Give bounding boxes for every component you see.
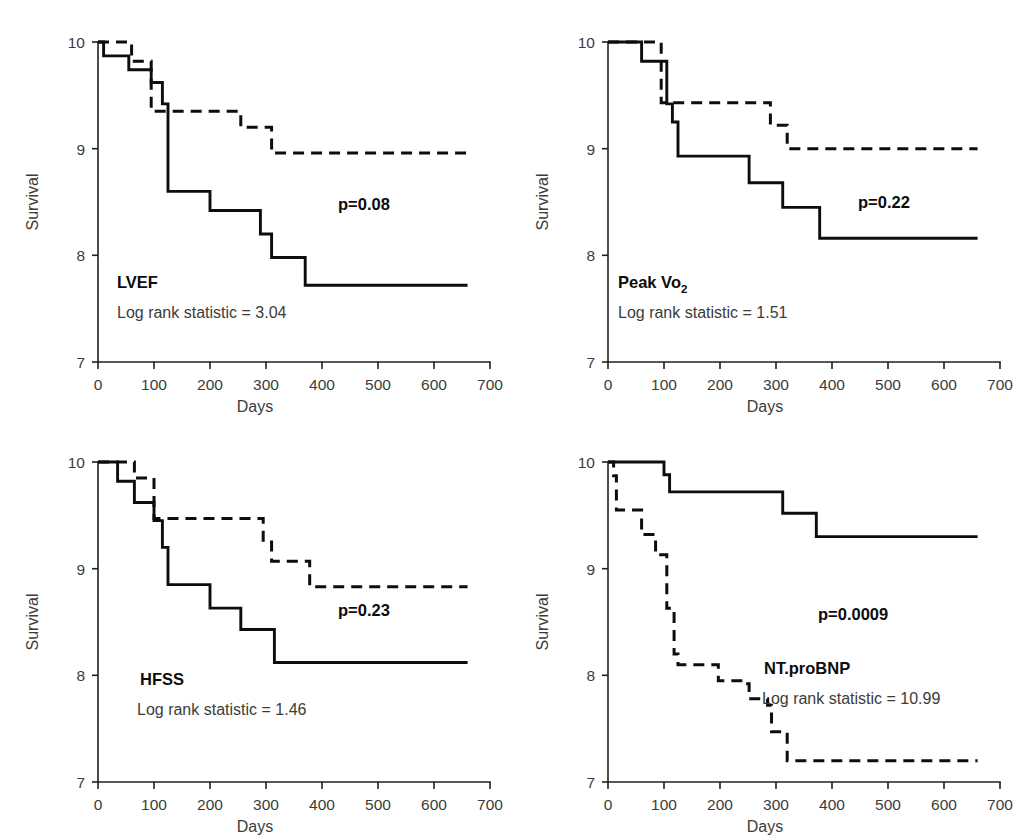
y-axis-title: Survival [24, 594, 41, 651]
x-tick-label: 600 [931, 376, 957, 393]
x-ticks-peak-vo2: 0 100 200 300 400 500 600 700 [604, 362, 1014, 393]
y-tick-label: 10 [68, 454, 86, 471]
y-ticks-lvef: 10 9 8 7 [68, 34, 98, 371]
x-tick-label: 500 [875, 376, 901, 393]
survival-curve-dashed [98, 462, 468, 587]
figure-root: 10 9 8 7 0 100 200 300 400 500 600 [0, 0, 1020, 840]
x-tick-label: 100 [651, 376, 677, 393]
x-ticks-nt-probnp: 0 100 200 300 400 500 600 700 [604, 782, 1014, 813]
y-axis-title: Survival [24, 174, 41, 231]
panel-nt-probnp-svg: 10 9 8 7 0 100 200 300 400 500 600 [510, 420, 1020, 840]
x-tick-label: 200 [707, 796, 733, 813]
x-tick-label: 500 [365, 796, 391, 813]
panel-peak-vo2: 10 9 8 7 0 100 200 300 400 500 600 [510, 0, 1020, 420]
x-tick-label: 700 [987, 376, 1013, 393]
p-value-annotation: p=0.0009 [818, 605, 888, 623]
y-tick-label: 8 [586, 247, 595, 264]
y-tick-label: 9 [586, 141, 595, 158]
survival-curve-dashed [608, 462, 978, 761]
x-tick-label: 700 [477, 376, 503, 393]
x-tick-label: 300 [253, 376, 279, 393]
p-value-annotation: p=0.23 [338, 601, 390, 619]
panel-title: LVEF [117, 273, 158, 291]
y-ticks-hfss: 10 9 8 7 [68, 454, 98, 791]
x-tick-label: 200 [707, 376, 733, 393]
x-axis-title: Days [747, 818, 783, 835]
y-tick-label: 9 [76, 561, 85, 578]
panel-nt-probnp: 10 9 8 7 0 100 200 300 400 500 600 [510, 420, 1020, 840]
survival-curve-solid [98, 42, 468, 285]
panel-title: HFSS [140, 670, 184, 688]
x-tick-label: 600 [931, 796, 957, 813]
y-tick-label: 8 [76, 247, 85, 264]
x-tick-label: 0 [94, 376, 103, 393]
log-rank-statistic: Log rank statistic = 1.51 [618, 304, 788, 321]
panel-lvef-svg: 10 9 8 7 0 100 200 300 400 500 600 [0, 0, 510, 420]
y-tick-label: 8 [76, 667, 85, 684]
x-tick-label: 300 [763, 376, 789, 393]
y-tick-label: 8 [586, 667, 595, 684]
y-tick-label: 10 [578, 34, 596, 51]
x-tick-label: 400 [309, 376, 335, 393]
log-rank-statistic: Log rank statistic = 1.46 [137, 701, 307, 718]
log-rank-statistic: Log rank statistic = 3.04 [117, 304, 287, 321]
y-axis-title: Survival [534, 174, 551, 231]
x-tick-label: 100 [141, 376, 167, 393]
panel-title-main: Peak Vo [618, 273, 681, 291]
x-tick-label: 400 [309, 796, 335, 813]
y-tick-label: 7 [76, 774, 85, 791]
y-tick-label: 10 [68, 34, 86, 51]
x-tick-label: 0 [94, 796, 103, 813]
y-tick-label: 7 [76, 354, 85, 371]
x-tick-label: 200 [197, 376, 223, 393]
log-rank-statistic: Log rank statistic = 10.99 [762, 690, 940, 707]
survival-curve-solid [608, 462, 978, 537]
x-ticks-hfss: 0 100 200 300 400 500 600 700 [94, 782, 504, 813]
x-axis-title: Days [237, 398, 273, 415]
x-axis-title: Days [237, 818, 273, 835]
x-tick-label: 400 [819, 376, 845, 393]
y-tick-label: 9 [586, 561, 595, 578]
x-tick-label: 0 [604, 376, 613, 393]
x-tick-label: 100 [651, 796, 677, 813]
x-tick-label: 700 [477, 796, 503, 813]
x-tick-label: 300 [253, 796, 279, 813]
survival-curve-solid [608, 42, 978, 238]
x-ticks-lvef: 0 100 200 300 400 500 600 700 [94, 362, 504, 393]
panel-title: NT.proBNP [764, 659, 850, 677]
x-tick-label: 600 [421, 376, 447, 393]
panel-hfss: 10 9 8 7 0 100 200 300 400 500 600 [0, 420, 510, 840]
survival-curve-dashed [98, 42, 468, 153]
y-tick-label: 7 [586, 774, 595, 791]
y-axis-title: Survival [534, 594, 551, 651]
y-tick-label: 9 [76, 141, 85, 158]
x-axis-title: Days [747, 398, 783, 415]
p-value-annotation: p=0.22 [858, 193, 910, 211]
x-tick-label: 0 [604, 796, 613, 813]
x-tick-label: 600 [421, 796, 447, 813]
panel-title: Peak Vo2 [618, 273, 687, 295]
x-tick-label: 400 [819, 796, 845, 813]
panel-hfss-svg: 10 9 8 7 0 100 200 300 400 500 600 [0, 420, 510, 840]
panel-title-subscript: 2 [681, 283, 687, 295]
y-ticks-nt-probnp: 10 9 8 7 [578, 454, 608, 791]
plot-frame-nt-probnp [608, 462, 1000, 782]
panel-peak-vo2-svg: 10 9 8 7 0 100 200 300 400 500 600 [510, 0, 1020, 420]
y-tick-label: 10 [578, 454, 596, 471]
p-value-annotation: p=0.08 [338, 195, 390, 213]
plot-frame-hfss [98, 462, 490, 782]
x-tick-label: 200 [197, 796, 223, 813]
y-ticks-peak-vo2: 10 9 8 7 [578, 34, 608, 371]
x-tick-label: 500 [365, 376, 391, 393]
survival-curve-solid [98, 462, 468, 663]
y-tick-label: 7 [586, 354, 595, 371]
x-tick-label: 300 [763, 796, 789, 813]
panel-lvef: 10 9 8 7 0 100 200 300 400 500 600 [0, 0, 510, 420]
x-tick-label: 700 [987, 796, 1013, 813]
survival-curve-dashed [608, 42, 978, 149]
x-tick-label: 100 [141, 796, 167, 813]
x-tick-label: 500 [875, 796, 901, 813]
